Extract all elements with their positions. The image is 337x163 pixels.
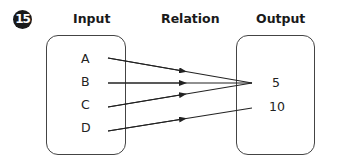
relation-arrows xyxy=(0,0,337,163)
